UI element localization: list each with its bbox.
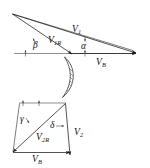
- label-gamma: γ: [20, 115, 24, 125]
- label-vb-upper: VB: [96, 58, 106, 68]
- upper-v1r-vector: [13, 14, 73, 54]
- blade-profile-shape: [55, 54, 80, 107]
- label-v1: V1: [72, 25, 81, 35]
- label-delta: δ: [50, 121, 54, 131]
- label-beta: β: [33, 41, 38, 51]
- label-vb-lower: VB: [32, 155, 42, 165]
- label-alpha: α: [81, 42, 86, 52]
- gamma-angle-marker: [23, 101, 39, 124]
- lower-v2-vector: [66, 104, 71, 156]
- label-v2r: V2R: [36, 133, 49, 143]
- velocity-triangle-figure: V1 V1R VB β α γ δ V2R V2 VB: [0, 0, 150, 168]
- lower-v2r-vector: [13, 104, 66, 153]
- lower-left-edge: [13, 104, 20, 153]
- label-v1r: V1R: [48, 36, 61, 46]
- label-v2: V2: [74, 128, 83, 138]
